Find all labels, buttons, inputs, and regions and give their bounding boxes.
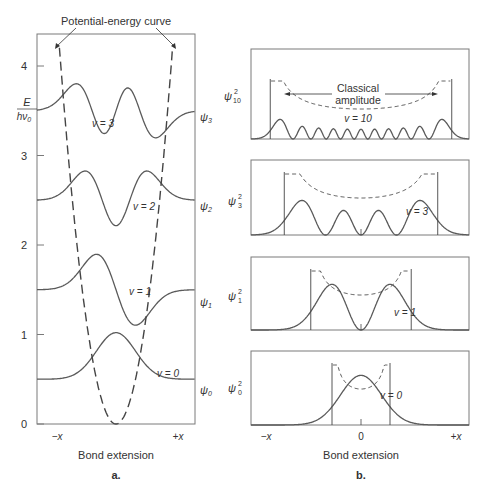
psi-squared-sup-3: 2 [238,193,242,200]
psi-label-3: ψ3 [200,111,212,124]
wavefunction-psi3 [37,84,195,138]
potential-energy-label: Potential-energy curve [61,15,171,27]
psi-squared-sub-0: 0 [238,389,242,396]
density-panel-frame [251,160,469,235]
classical-probability-curve [312,271,410,295]
level-label-v3: v = 3 [92,118,114,129]
x-center-label-b: 0 [358,431,364,442]
density-panel-frame [251,351,469,425]
arrowhead-icon [284,92,290,96]
level-label-v0: v = 0 [157,368,179,379]
psi-squared-label-10: ψ [224,90,232,102]
x-axis-label: Bond extension [78,449,154,461]
y-tick-label: 3 [21,150,27,162]
x-right-label: +x [173,431,185,442]
level-label-v2: v = 2 [133,201,155,212]
density-panel-v0 [251,351,469,425]
wavefunctions [37,84,195,380]
probability-density-curve [251,200,469,235]
psi-squared-sub-10: 10 [233,97,241,104]
psi-squared-sup-1: 2 [238,288,242,295]
y-tick-label: 1 [21,329,27,341]
x-left-label-b: −x [261,431,273,442]
y-tick-label: 0 [21,418,27,430]
y-label-denominator: hν0 [17,111,32,123]
psi-label-0: ψ0 [200,384,212,397]
wavefunction-psi1 [37,254,195,325]
classical-amplitude-label-line2: amplitude [335,94,381,106]
classical-amplitude-label-line1: Classical [337,82,379,94]
level-label-v1: v = 1 [129,286,151,297]
psi-squared-sup-10: 2 [234,88,238,95]
potential-energy-curve [59,48,172,424]
y-tick-label: 4 [21,60,27,72]
panel-a-frame [37,34,195,424]
wavefunction-psi2 [37,171,195,226]
psi-squared-label-0: ψ [228,382,236,394]
psi-label-2: ψ2 [200,200,212,213]
panel-a: 01234 Potential-energy curve E hν0 v = 3… [17,15,212,481]
density-label-v1: v = 1 [394,307,416,318]
probability-density-curve [251,284,469,330]
annotation-arrow-right [156,28,174,46]
panel-caption-b: b. [356,469,366,481]
panel-b-labels: ψ 2 10 ψ 2 3 ψ 2 1 ψ 2 0 Classical ampli… [224,82,462,481]
psi-squared-label-1: ψ [228,290,236,302]
x-axis-label-b: Bond extension [323,449,399,461]
probability-density-curve [251,375,469,425]
density-label-v10: v = 10 [344,113,372,124]
psi-squared-sub-1: 1 [238,297,242,304]
psi-squared-sup-0: 2 [238,380,242,387]
figure: 01234 Potential-energy curve E hν0 v = 3… [0,0,492,497]
arrowhead-icon [432,92,438,96]
x-left-label: −x [52,431,64,442]
y-label-numerator: E [23,96,31,108]
psi-label-1: ψ1 [200,296,212,309]
classical-probability-curve [333,365,389,389]
classical-probability-curve [285,174,436,198]
psi-squared-sub-3: 3 [238,202,242,209]
psi-squared-label-3: ψ [228,195,236,207]
annotation-arrow-left [57,28,76,46]
y-tick-label: 2 [21,239,27,251]
density-panel-v3 [251,160,469,235]
panel-caption-a: a. [111,469,120,481]
density-label-v3: v = 3 [406,206,428,217]
density-label-v0: v = 0 [380,390,402,401]
density-panel-frame [251,257,469,330]
density-panel-v1 [251,257,469,330]
x-right-label-b: +x [451,431,463,442]
